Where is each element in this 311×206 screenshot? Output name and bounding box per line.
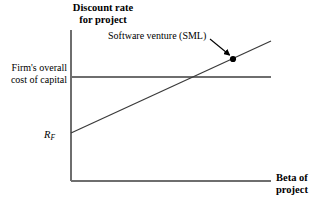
software-venture-data-point: [230, 56, 236, 62]
discount-rate-beta-chart: Discount rate for project Firm's overall…: [0, 0, 311, 206]
sml-line: [71, 41, 271, 133]
sml-annotation-arrow: [210, 39, 230, 55]
plot-area: [0, 0, 311, 206]
